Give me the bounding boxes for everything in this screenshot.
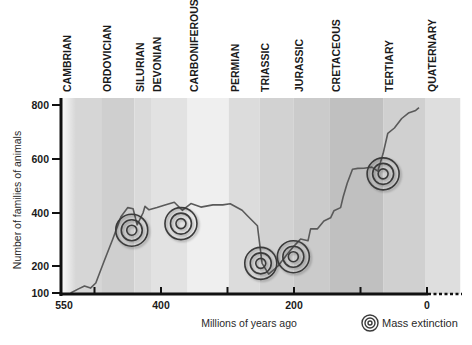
y-tick-label: 200: [31, 260, 49, 272]
period-labels: CAMBRIANORDOVICIANSILURIANDEVONIANCARBON…: [61, 0, 437, 92]
legend: Mass extinction: [362, 315, 458, 331]
y-tick-label: 600: [31, 153, 49, 165]
legend-label: Mass extinction: [382, 317, 458, 329]
period-label-cambrian: CAMBRIAN: [61, 35, 73, 92]
period-band-devonian: [151, 98, 188, 294]
evolution-chart: CAMBRIANORDOVICIANSILURIANDEVONIANCARBON…: [0, 0, 472, 345]
period-label-tertiary: TERTIARY: [383, 40, 395, 92]
period-band-silurian: [134, 98, 151, 294]
period-band-jurassic: [293, 98, 330, 294]
y-axis-title: Number of families of animals: [11, 131, 23, 269]
x-axis-title: Millions of years ago: [201, 317, 297, 329]
y-tick-label: 100: [31, 287, 49, 299]
period-label-cretaceous: CRETACEOUS: [330, 19, 342, 92]
period-band-carboniferous: [188, 98, 229, 294]
period-band-tertiary: [383, 98, 426, 294]
period-label-devonian: DEVONIAN: [151, 37, 163, 92]
y-tick-label: 400: [31, 207, 49, 219]
period-bands: [61, 98, 460, 294]
y-tick-label: 800: [31, 99, 49, 111]
period-band-quaternary: [426, 98, 461, 294]
x-tick-label: 0: [424, 299, 430, 311]
period-band-ordovician: [101, 98, 134, 294]
x-tick-label: 200: [285, 299, 303, 311]
x-tick-label: 400: [152, 299, 170, 311]
period-label-quaternary: QUATERNARY: [426, 19, 438, 92]
period-label-silurian: SILURIAN: [134, 42, 146, 92]
period-label-triassic: TRIASSIC: [259, 43, 271, 92]
y-axis-ticks: 800600400200100: [31, 99, 61, 299]
x-tick-label: 550: [55, 299, 73, 311]
period-label-carboniferous: CARBONIFEROUS: [188, 0, 200, 92]
period-label-jurassic: JURASSIC: [293, 38, 305, 92]
mass-extinction-legend-icon: [362, 315, 378, 331]
period-label-permian: PERMIAN: [229, 44, 241, 92]
period-band-cretaceous: [330, 98, 383, 294]
period-label-ordovician: ORDOVICIAN: [101, 25, 113, 92]
